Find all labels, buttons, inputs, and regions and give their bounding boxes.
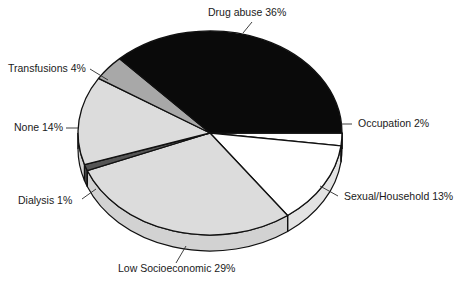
slice-label-transfusions: Transfusions 4% xyxy=(8,62,86,74)
slice-label-sexual-household: Sexual/Household 13% xyxy=(344,190,453,202)
slice-label-dialysis: Dialysis 1% xyxy=(18,194,72,206)
pie-chart-figure: Occupation 2%Sexual/Household 13%Low Soc… xyxy=(0,0,458,281)
slice-label-low-socioeconomic: Low Socioeconomic 29% xyxy=(118,262,235,274)
slice-label-occupation: Occupation 2% xyxy=(358,117,429,129)
slice-label-drug-abuse: Drug abuse 36% xyxy=(208,6,286,18)
slice-label-none: None 14% xyxy=(14,121,63,133)
pie-top-face xyxy=(78,31,342,235)
